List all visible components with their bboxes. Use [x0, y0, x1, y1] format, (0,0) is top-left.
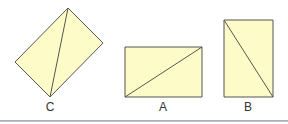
- shape-a: [125, 47, 202, 97]
- label-a: A: [159, 100, 167, 114]
- label-b: B: [244, 100, 252, 114]
- divider-rule: [0, 120, 288, 122]
- shape-c: [15, 8, 103, 97]
- shape-b: [224, 20, 273, 97]
- label-c: C: [46, 100, 55, 114]
